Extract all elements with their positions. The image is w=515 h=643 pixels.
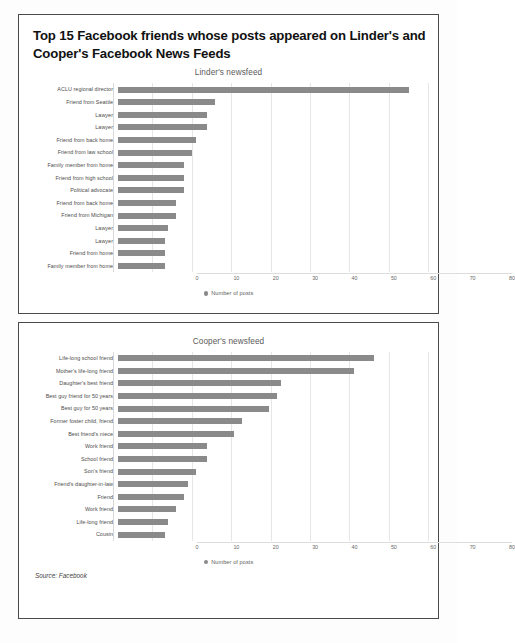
bar xyxy=(118,380,281,386)
bar xyxy=(118,250,165,256)
bar-track xyxy=(118,238,428,244)
bar-track xyxy=(118,368,428,374)
bar-track xyxy=(118,263,428,269)
bar xyxy=(118,162,184,168)
category-label: Lawyer xyxy=(29,124,118,131)
legend-marker-icon xyxy=(204,560,209,565)
category-label: Family member from home xyxy=(29,162,118,169)
bar xyxy=(118,481,188,487)
chart-row: Life-long friend xyxy=(29,516,428,529)
page-title: Top 15 Facebook friends whose posts appe… xyxy=(33,27,426,62)
bar xyxy=(118,443,207,449)
bar xyxy=(118,187,184,193)
chart-row: Best guy for 50 years xyxy=(29,402,428,415)
bar-track xyxy=(118,112,428,118)
x-tick-label: 60 xyxy=(430,275,436,281)
bar xyxy=(118,368,354,374)
chart-row: Friend from Seattle xyxy=(29,96,428,109)
x-axis-linder: 01020304050607080 xyxy=(113,273,512,285)
category-label: Life-long school friend xyxy=(29,355,118,362)
x-tick-label: 70 xyxy=(470,275,476,281)
x-tick-label: 10 xyxy=(233,275,239,281)
category-label: Lawyer xyxy=(29,225,118,232)
bar-track xyxy=(118,200,428,206)
category-label: Daughter's best friend xyxy=(29,380,118,387)
bar xyxy=(118,494,184,500)
category-label: Lawyer xyxy=(29,112,118,119)
chart-row: School friend xyxy=(29,453,428,466)
chart-row: Lawyer xyxy=(29,121,428,134)
bar-track xyxy=(118,380,428,386)
bar xyxy=(118,175,184,181)
x-tick-label: 80 xyxy=(509,275,515,281)
bar-track xyxy=(118,87,428,93)
chart-row: Political advocate xyxy=(29,184,428,197)
category-label: Family member from home xyxy=(29,263,118,270)
category-label: Friend from home xyxy=(29,250,118,257)
chart-card-cooper: Cooper's newsfeed Life-long school frien… xyxy=(18,322,439,619)
bar-rows-cooper: Life-long school friendMother's life-lon… xyxy=(29,352,428,541)
bar-rows-linder: ACLU regional directorFriend from Seattl… xyxy=(29,83,428,272)
chart-row: Friend from back home xyxy=(29,197,428,210)
chart-row: Friend from high school xyxy=(29,172,428,185)
chart-row: Friend's daughter-in-law xyxy=(29,478,428,491)
x-tick-label: 60 xyxy=(430,544,436,550)
chart-row: Work friend xyxy=(29,440,428,453)
bar-track xyxy=(118,494,428,500)
chart-row: Lawyer xyxy=(29,109,428,122)
x-tick-label: 30 xyxy=(312,275,318,281)
chart-row: Best friend's niece xyxy=(29,428,428,441)
bar xyxy=(118,418,242,424)
x-tick-label: 80 xyxy=(509,544,515,550)
bar xyxy=(118,124,207,130)
chart-row: Cousin xyxy=(29,528,428,541)
bar xyxy=(118,112,207,118)
bar xyxy=(118,519,168,525)
bar-track xyxy=(118,150,428,156)
bar-track xyxy=(118,481,428,487)
chart-row: Family member from home xyxy=(29,159,428,172)
gridline xyxy=(428,83,429,272)
plot-area-cooper: Life-long school friendMother's life-lon… xyxy=(29,352,428,541)
bar-track xyxy=(118,162,428,168)
chart-row: Life-long school friend xyxy=(29,352,428,365)
bar-track xyxy=(118,393,428,399)
x-tick-label: 0 xyxy=(196,275,199,281)
legend-marker-icon xyxy=(204,291,209,296)
category-label: Work friend xyxy=(29,506,118,513)
bar xyxy=(118,87,409,93)
bar-track xyxy=(118,124,428,130)
bar-track xyxy=(118,137,428,143)
bar-track xyxy=(118,431,428,437)
bar xyxy=(118,263,165,269)
category-label: School friend xyxy=(29,456,118,463)
chart-card-linder: Top 15 Facebook friends whose posts appe… xyxy=(18,14,439,314)
chart-row: Work friend xyxy=(29,503,428,516)
category-label: Friend from back home xyxy=(29,200,118,207)
bar-track xyxy=(118,99,428,105)
legend-cooper: Number of posts xyxy=(29,559,428,565)
x-tick-label: 20 xyxy=(273,275,279,281)
chart-row: Son's friend xyxy=(29,465,428,478)
chart-row: Friend xyxy=(29,491,428,504)
category-label: Political advocate xyxy=(29,187,118,194)
source-note: Source: Facebook xyxy=(35,572,428,579)
chart-row: ACLU regional director xyxy=(29,83,428,96)
bar-track xyxy=(118,506,428,512)
bar xyxy=(118,213,176,219)
chart-title-cooper: Cooper's newsfeed xyxy=(29,337,428,346)
chart-row: Daughter's best friend xyxy=(29,377,428,390)
category-label: Best guy friend for 50 years xyxy=(29,393,118,400)
bar-track xyxy=(118,418,428,424)
bar-track xyxy=(118,443,428,449)
category-label: Cousin xyxy=(29,531,118,538)
x-tick-label: 10 xyxy=(233,544,239,550)
category-label: Work friend xyxy=(29,443,118,450)
category-label: Friend's daughter-in-law xyxy=(29,481,118,488)
bar xyxy=(118,431,234,437)
x-tick-label: 40 xyxy=(352,275,358,281)
x-tick-label: 50 xyxy=(391,275,397,281)
chart-row: Former foster child, friend xyxy=(29,415,428,428)
category-label: ACLU regional director xyxy=(29,86,118,93)
category-label: Friend from high school xyxy=(29,175,118,182)
